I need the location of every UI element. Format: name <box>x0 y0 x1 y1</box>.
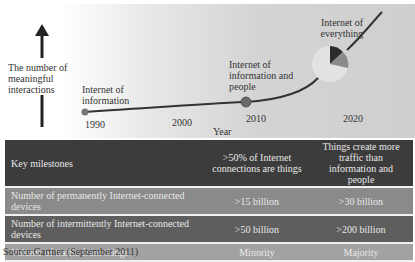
cell-2010: >50% of Internet connections are things <box>205 140 309 187</box>
cell-2010: Minority <box>205 243 309 261</box>
table-row: Number of intermittently Internet-connec… <box>5 215 413 243</box>
cell-2020: Things create more traffic than informat… <box>309 140 413 187</box>
start-point <box>82 109 89 116</box>
row-label: Number of permanently Internet-connected… <box>5 187 205 215</box>
year-tick-2000: 2000 <box>172 117 192 128</box>
cell-2010: >15 billion <box>205 187 309 215</box>
stage-label-information-people: Internet of information and people <box>229 59 295 92</box>
row-label: Key milestones <box>5 140 205 187</box>
y-axis-label: The number of meaningful interactions <box>8 62 80 95</box>
stage-label-information: Internet of information <box>82 84 142 106</box>
cell-2010: >50 billion <box>205 215 309 243</box>
year-tick-1990: 1990 <box>85 119 105 130</box>
year-tick-2010: 2010 <box>246 113 266 124</box>
milestones-table: Key milestones >50% of Internet connecti… <box>5 140 413 262</box>
year-tick-2020: 2020 <box>343 113 363 124</box>
stage-label-everything: Internet of everything <box>312 17 372 39</box>
source-caption: Source:Gartner (September 2011) <box>3 246 138 257</box>
table-row: Number of permanently Internet-connected… <box>5 187 413 215</box>
cell-2020: Majority <box>309 243 413 261</box>
mid-point <box>241 97 251 107</box>
row-label: Number of intermittently Internet-connec… <box>5 215 205 243</box>
cell-2020: >200 billion <box>309 215 413 243</box>
x-axis-label: Year <box>213 126 231 137</box>
cell-2020: >30 billion <box>309 187 413 215</box>
table-row: Key milestones >50% of Internet connecti… <box>5 140 413 187</box>
pie-icon <box>312 46 348 82</box>
